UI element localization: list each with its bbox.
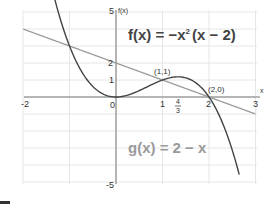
annotation-2-0: (2,0) [208, 85, 225, 94]
y-tick-1: 1 [109, 75, 114, 85]
y-tick-2: 2 [108, 58, 113, 68]
y-tick-neg5: -5 [106, 180, 114, 190]
g-equation: g(x) = 2 − x [128, 139, 207, 156]
annotation-1-1: (1,1) [154, 67, 171, 76]
x-tick-3: 3 [253, 99, 258, 109]
x-tick-neg2: -2 [21, 99, 29, 109]
x-tick-1: 1 [160, 99, 165, 109]
x-tick-4-3-num: 4 [176, 98, 180, 105]
f-equation: f(x) = −x2(x − 2) [128, 26, 236, 43]
x-axis-label: x [260, 87, 264, 94]
y-axis-label: f(x) [118, 7, 128, 15]
x-tick-0: 0 [110, 100, 115, 110]
y-tick-5: 5 [109, 6, 114, 16]
x-tick-4-3-den: 3 [176, 107, 180, 114]
corner-bar [0, 201, 10, 204]
x-tick-2: 2 [206, 99, 211, 109]
function-graph: 5 f(x) 2 1 -5 -2 0 1 4 3 2 3 x (1,1) (2,… [0, 0, 273, 206]
